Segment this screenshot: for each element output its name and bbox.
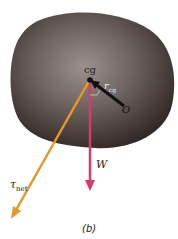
r-cg-label: rcg: [104, 80, 116, 93]
cg-dot: [87, 77, 93, 83]
pivot-o-label: O: [122, 104, 130, 115]
cg-label: cg: [84, 64, 96, 75]
weight-label: W: [96, 158, 107, 171]
weight-arrowhead-icon: [85, 180, 95, 191]
tau-net-arrowhead-icon: [11, 206, 21, 219]
tau-net-label: τnet: [10, 178, 28, 193]
tau-subscript: net: [16, 185, 27, 193]
r-cg-subscript: cg: [109, 86, 116, 93]
figure-caption: (b): [82, 223, 96, 234]
diagram-canvas: [0, 0, 178, 239]
